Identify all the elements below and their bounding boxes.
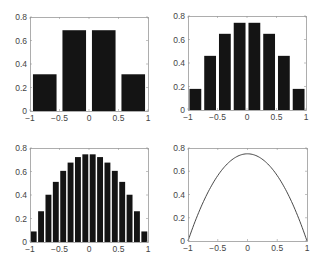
y-tick-label: 0.4 [15, 190, 27, 200]
bar [31, 231, 37, 242]
bar [62, 30, 86, 111]
bar [53, 182, 59, 242]
figure: −1−0.500.5100.20.40.60.8−1−0.500.5100.20… [0, 0, 321, 265]
x-tick-label: 1 [304, 112, 309, 122]
bar [141, 231, 147, 242]
y-tick-label: 0.4 [15, 59, 27, 69]
x-tick-label: −0.5 [51, 244, 68, 254]
y-tick-label: 0.6 [15, 36, 27, 46]
bar [234, 23, 246, 110]
y-tick-label: 0.4 [173, 190, 185, 200]
x-tick-label: 0 [245, 112, 250, 122]
bar [75, 157, 81, 242]
y-tick-label: 0.8 [15, 143, 27, 153]
y-tick-label: 0.2 [173, 213, 185, 223]
curve-line [188, 154, 307, 241]
bar [278, 56, 290, 110]
y-tick-label: 0.8 [173, 143, 185, 153]
x-tick-label: 0.5 [113, 244, 125, 254]
y-tick-label: 0.4 [173, 58, 185, 68]
x-tick-label: 1 [146, 244, 151, 254]
y-tick-label: 0 [22, 106, 27, 116]
bar [189, 89, 201, 110]
bar [45, 195, 51, 242]
bar [134, 211, 140, 242]
bar [60, 171, 66, 242]
y-tick-label: 0 [22, 237, 27, 247]
x-tick-label: 0 [87, 244, 92, 254]
bar [97, 157, 103, 242]
bar [127, 195, 133, 242]
y-tick-label: 0.2 [173, 82, 185, 92]
y-tick-label: 0.2 [15, 214, 27, 224]
y-tick-label: 0.6 [173, 166, 185, 176]
y-tick-label: 0.8 [15, 12, 27, 22]
x-tick-label: 0 [87, 113, 92, 123]
subplot-3: −1−0.500.5100.20.40.60.8 [15, 143, 150, 254]
bar [119, 182, 125, 242]
x-tick-label: 0.5 [271, 112, 283, 122]
bar [219, 34, 231, 110]
x-tick-label: −0.5 [51, 113, 68, 123]
y-tick-label: 0.6 [173, 35, 185, 45]
bar [92, 30, 116, 111]
bar [104, 163, 110, 242]
bar [204, 56, 216, 110]
x-tick-label: 1 [305, 243, 310, 253]
bar [90, 154, 96, 242]
bar [112, 171, 118, 242]
bar [38, 211, 44, 242]
bar [293, 89, 305, 110]
bar [33, 74, 57, 111]
x-tick-label: −0.5 [209, 112, 226, 122]
y-tick-label: 0.8 [173, 11, 185, 21]
bar [82, 154, 88, 242]
subplot-4: −1−0.500.5100.20.40.60.8 [173, 143, 309, 253]
x-tick-label: −0.5 [209, 243, 226, 253]
bar [68, 163, 74, 242]
subplot-1: −1−0.500.5100.20.40.60.8 [15, 12, 150, 123]
bar [263, 34, 275, 110]
x-tick-label: 1 [146, 113, 151, 123]
bar [121, 74, 145, 111]
x-tick-label: 0 [245, 243, 250, 253]
y-tick-label: 0.6 [15, 167, 27, 177]
x-tick-label: 0.5 [271, 243, 283, 253]
bar [248, 23, 260, 110]
subplot-2: −1−0.500.5100.20.40.60.8 [173, 11, 308, 122]
y-tick-label: 0.2 [15, 83, 27, 93]
y-tick-label: 0 [180, 236, 185, 246]
y-tick-label: 0 [180, 105, 185, 115]
x-tick-label: 0.5 [113, 113, 125, 123]
